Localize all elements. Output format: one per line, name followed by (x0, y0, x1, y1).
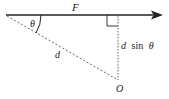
lever-arm-d: d (121, 40, 127, 51)
lever-arm-label: d sin θ (121, 40, 154, 51)
angle-arc (36, 15, 41, 33)
torque-diagram: F d θ d sin θ O (0, 0, 169, 99)
lever-arm-sin: sin (132, 40, 144, 51)
distance-line (7, 16, 118, 80)
pivot-label: O (116, 83, 123, 94)
lever-arm-theta: θ (149, 40, 154, 51)
angle-label: θ (30, 18, 35, 29)
distance-label: d (55, 49, 61, 60)
force-label: F (71, 1, 79, 13)
right-angle-marker (107, 15, 118, 26)
